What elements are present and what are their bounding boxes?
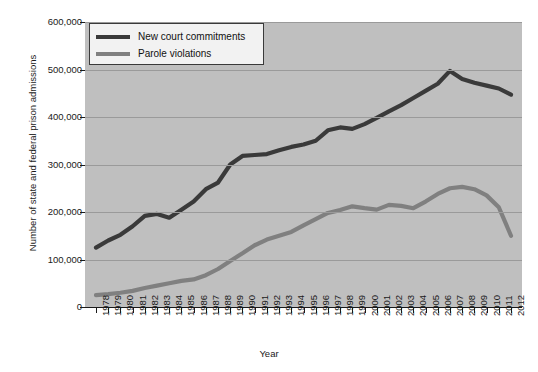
- x-axis-tick-mark: [377, 308, 378, 313]
- y-axis-tick-label: 300,000: [26, 159, 82, 171]
- gridline: [85, 117, 522, 118]
- x-axis-tick-mark: [291, 308, 292, 313]
- x-axis-tick-mark: [413, 308, 414, 313]
- series-line-new-court-commitments: [96, 71, 511, 248]
- x-axis-tick-label: 2001: [381, 295, 392, 316]
- x-axis-tick-label: 2005: [430, 295, 441, 316]
- gridline: [85, 260, 522, 261]
- x-axis-tick-mark: [230, 308, 231, 313]
- x-axis-tick-label: 1992: [271, 295, 282, 316]
- x-axis-title: Year: [0, 348, 538, 359]
- x-axis-tick-mark: [365, 308, 366, 313]
- x-axis-tick-label: 1979: [112, 295, 123, 316]
- x-axis-tick-label: 1991: [259, 295, 270, 316]
- x-axis-tick-label: 1985: [185, 295, 196, 316]
- y-axis-tick-label: 500,000: [26, 64, 82, 76]
- x-axis-tick-label: 1994: [295, 295, 306, 316]
- x-axis-tick-label: 1995: [308, 295, 319, 316]
- x-axis-tick-label: 2008: [466, 295, 477, 316]
- x-axis-tick-mark: [169, 308, 170, 313]
- x-axis-tick-mark: [511, 308, 512, 313]
- x-axis-tick-mark: [340, 308, 341, 313]
- legend-swatch-parole-violations: [96, 52, 130, 56]
- x-axis-tick-mark: [242, 308, 243, 313]
- x-axis-tick-label: 2007: [454, 295, 465, 316]
- x-axis-tick-label: 2012: [515, 295, 526, 316]
- legend-label: Parole violations: [138, 48, 211, 59]
- x-axis-tick-label: 1986: [198, 295, 209, 316]
- x-axis-tick-mark: [133, 308, 134, 313]
- x-axis-tick-label: 2006: [442, 295, 453, 316]
- x-axis-tick-label: 1982: [149, 295, 160, 316]
- y-axis-tick-label: 0: [26, 301, 82, 313]
- x-axis-tick-mark: [108, 308, 109, 313]
- y-axis-tick-label: 200,000: [26, 206, 82, 218]
- series-line-parole-violations: [96, 187, 511, 295]
- chart-legend: New court commitments Parole violations: [89, 23, 264, 65]
- gridline: [85, 70, 522, 71]
- x-axis-tick-label: 1981: [137, 295, 148, 316]
- x-axis-tick-mark: [450, 308, 451, 313]
- chart-figure: Number of state and federal prison admis…: [0, 0, 538, 372]
- x-axis-tick-mark: [304, 308, 305, 313]
- x-axis-tick-mark: [267, 308, 268, 313]
- x-axis-tick-label: 2000: [369, 295, 380, 316]
- x-axis-tick-mark: [157, 308, 158, 313]
- x-axis-tick-label: 1997: [332, 295, 343, 316]
- x-axis-tick-label: 1987: [210, 295, 221, 316]
- legend-label: New court commitments: [138, 31, 245, 42]
- x-axis-tick-label: 2002: [393, 295, 404, 316]
- x-axis-tick-mark: [462, 308, 463, 313]
- x-axis-tick-mark: [279, 308, 280, 313]
- x-axis-tick-mark: [120, 308, 121, 313]
- x-axis-tick-label: 2009: [478, 295, 489, 316]
- x-axis-tick-label: 1993: [283, 295, 294, 316]
- x-axis-tick-mark: [487, 308, 488, 313]
- x-axis-tick-mark: [389, 308, 390, 313]
- x-axis-tick-mark: [316, 308, 317, 313]
- x-axis-tick-label: 1984: [173, 295, 184, 316]
- y-axis-tick-label: 600,000: [26, 16, 82, 28]
- gridline: [85, 212, 522, 213]
- x-axis-tick-mark: [499, 308, 500, 313]
- x-axis-tick-mark: [401, 308, 402, 313]
- x-axis-tick-mark: [96, 308, 97, 313]
- y-axis-tick-label: 100,000: [26, 254, 82, 266]
- x-axis-tick-mark: [181, 308, 182, 313]
- x-axis-tick-label: 1998: [344, 295, 355, 316]
- x-axis-tick-label: 2011: [503, 296, 514, 316]
- x-axis-tick-label: 2004: [417, 295, 428, 316]
- x-axis-tick-mark: [206, 308, 207, 313]
- x-axis-tick-mark: [328, 308, 329, 313]
- x-axis-tick-mark: [145, 308, 146, 313]
- x-axis-tick-label: 2010: [491, 295, 502, 316]
- x-axis-tick-label: 1978: [100, 295, 111, 316]
- x-axis-tick-label: 1980: [124, 295, 135, 316]
- gridline: [85, 165, 522, 166]
- legend-item: New court commitments: [96, 28, 257, 45]
- x-axis-tick-label: 1989: [234, 295, 245, 316]
- x-axis-tick-mark: [194, 308, 195, 313]
- legend-swatch-new-court-commitments: [96, 35, 130, 39]
- x-axis-tick-label: 2003: [405, 295, 416, 316]
- y-axis-tick-label: 400,000: [26, 111, 82, 123]
- x-axis-tick-mark: [218, 308, 219, 313]
- x-axis-tick-label: 1988: [222, 295, 233, 316]
- legend-item: Parole violations: [96, 45, 257, 62]
- x-axis-tick-mark: [255, 308, 256, 313]
- x-axis-tick-mark: [474, 308, 475, 313]
- x-axis-tick-label: 1990: [246, 295, 257, 316]
- x-axis-tick-mark: [352, 308, 353, 313]
- x-axis-tick-mark: [426, 308, 427, 313]
- x-axis-tick-label: 1983: [161, 295, 172, 316]
- x-axis-tick-label: 1999: [356, 295, 367, 316]
- x-axis-tick-label: 1996: [320, 295, 331, 316]
- x-axis-tick-mark: [438, 308, 439, 313]
